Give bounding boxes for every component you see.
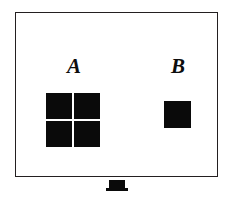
display-screen-frame: A B (15, 12, 218, 177)
stimulus-label-b: B (171, 56, 185, 77)
stimulus-b-square (164, 101, 191, 128)
stimulus-label-a: A (67, 56, 81, 77)
screen-stand-base (106, 188, 128, 191)
stimulus-a-grid (46, 93, 100, 147)
stimulus-b-patch (164, 101, 191, 128)
figure-root: A B (0, 0, 230, 197)
screen-stand (106, 178, 128, 193)
stimulus-a-patch-bottom-right (74, 121, 100, 147)
stimulus-a-patch-bottom-left (46, 121, 72, 147)
stimulus-a-patch-top-left (46, 93, 72, 119)
stimulus-a-patch-top-right (74, 93, 100, 119)
